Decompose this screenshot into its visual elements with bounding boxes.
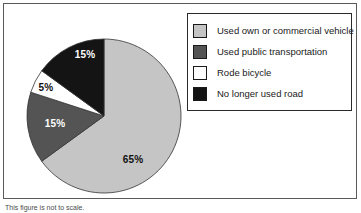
legend-box: Used own or commercial vehicle Used publ… [187,13,352,111]
legend-label: No longer used road [217,88,303,99]
legend-item-public-transportation: Used public transportation [193,45,347,58]
legend-item-no-longer-used-road: No longer used road [193,87,347,100]
figure-page: 65% 15% 5% 15% Used own or commercial ve… [0,0,361,213]
pie-slice-label-used-own-vehicle: 65% [123,154,144,165]
legend-item-rode-bicycle: Rode bicycle [193,66,347,79]
pie-slice-label-rode-bicycle: 5% [39,82,54,93]
pie-slice-label-no-longer-used-road: 15% [75,49,96,60]
legend-label: Rode bicycle [217,67,271,78]
legend-swatch-gray [193,24,207,38]
legend-label: Used own or commercial vehicle [217,25,354,36]
caption-cropped: This figure is not to scale. [5,204,84,211]
pie-slice-label-public-transportation: 15% [45,118,66,129]
legend-swatch-black [193,87,207,101]
legend-swatch-white [193,66,207,80]
legend-swatch-dark-gray [193,45,207,59]
pie-chart [19,31,189,201]
legend-item-used-own-vehicle: Used own or commercial vehicle [193,24,347,37]
legend-label: Used public transportation [217,46,327,57]
